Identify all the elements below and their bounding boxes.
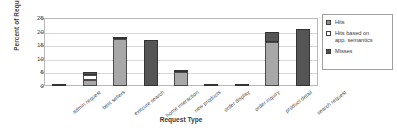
bar-segment[interactable] — [174, 72, 188, 86]
bar-group[interactable] — [83, 72, 97, 86]
bar-segment[interactable] — [296, 29, 310, 86]
x-axis-title: Request Type — [44, 116, 318, 123]
bar-segment[interactable] — [235, 84, 249, 86]
y-axis-title: Percent of Requests — [13, 0, 23, 67]
legend-label: Hits based on app. semantics — [335, 30, 373, 43]
x-tick-label: admin request — [71, 89, 102, 115]
x-tick-label: order inquiry — [253, 89, 280, 112]
semantics-swatch-icon — [326, 31, 331, 36]
bar-group[interactable] — [204, 84, 218, 86]
x-tick-label: best sellers — [100, 89, 125, 111]
legend-label: Misses — [335, 48, 352, 54]
x-tick-label: order display — [223, 89, 251, 113]
bar-segment[interactable] — [265, 42, 279, 86]
bar-group[interactable] — [174, 70, 188, 86]
bar-segment[interactable] — [265, 32, 279, 43]
chart-legend: Hits Hits based on app. semantics Misses — [322, 14, 393, 70]
bar-group[interactable] — [52, 84, 66, 86]
legend-label: Hits — [335, 19, 345, 25]
bar-group[interactable] — [265, 32, 279, 86]
chart-figure: Percent of Requests 25 20 15 10 5 0 admi… — [0, 0, 397, 131]
x-tick-label: execute search — [133, 89, 166, 116]
bar-segment[interactable] — [52, 84, 66, 86]
x-tick-label: product detail — [284, 89, 313, 114]
bar-segment[interactable] — [113, 39, 127, 86]
bar-series-container — [44, 18, 318, 86]
bar-group[interactable] — [296, 29, 310, 86]
bar-segment[interactable] — [144, 40, 158, 86]
bar-group[interactable] — [144, 40, 158, 86]
bar-segment[interactable] — [83, 80, 97, 86]
y-tick-mark — [40, 86, 44, 87]
x-tick-label: home interaction — [164, 89, 199, 118]
legend-item-hits: Hits — [326, 19, 389, 25]
legend-item-misses: Misses — [326, 48, 389, 54]
legend-item-semantics: Hits based on app. semantics — [326, 30, 389, 43]
hits-swatch-icon — [326, 20, 331, 25]
bar-segment[interactable] — [204, 84, 218, 86]
bar-group[interactable] — [235, 84, 249, 86]
bar-group[interactable] — [113, 37, 127, 86]
misses-swatch-icon — [326, 49, 331, 54]
x-tick-label: search request — [315, 89, 347, 116]
